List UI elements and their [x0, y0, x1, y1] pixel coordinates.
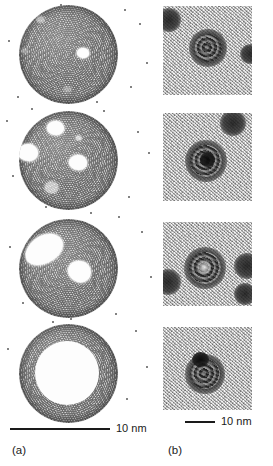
stray-atom	[31, 108, 33, 110]
void-3	[69, 155, 87, 170]
nanoparticle-cross-section-3	[19, 219, 118, 318]
stray-atom	[139, 23, 141, 25]
stray-atom	[7, 348, 9, 350]
tem-micrograph-4	[163, 327, 252, 410]
scalebar-label-panel-a: 10 nm	[116, 423, 147, 434]
stray-atom	[103, 110, 105, 112]
stray-atom	[148, 152, 150, 154]
stray-atom	[124, 9, 126, 11]
stray-atom	[52, 321, 54, 323]
void-4	[45, 182, 58, 193]
stray-atom	[22, 302, 24, 304]
tem-nanoparticle-neighbor-bottom-right	[234, 283, 252, 305]
figure-container: 10 nm 10 nm (a) (b)	[0, 0, 273, 466]
tem-micrograph-1	[163, 6, 252, 95]
stray-atom	[130, 86, 132, 88]
void-3	[22, 49, 27, 53]
panel-label-b: (b)	[168, 445, 182, 457]
void-2	[37, 17, 44, 22]
tem-nanoparticle-neighbor-top	[220, 113, 246, 136]
tem-nanoparticle-neighbor-right	[240, 44, 252, 64]
void-1	[77, 48, 89, 58]
panel-label-a: (a)	[12, 445, 26, 457]
stray-atom	[146, 62, 148, 64]
stray-atom	[96, 101, 98, 103]
scalebar-label-panel-b: 10 nm	[221, 416, 252, 427]
stray-atom	[9, 246, 11, 248]
stray-atom	[88, 411, 90, 413]
stray-atom	[6, 120, 8, 122]
stray-atom	[60, 4, 62, 6]
tem-dark-core	[192, 352, 209, 367]
stray-atom	[141, 231, 143, 233]
tem-nanoparticle-neighbor-left	[163, 269, 181, 295]
stray-atom	[150, 276, 152, 278]
nanoparticle-cross-section-4	[19, 324, 118, 423]
nanoparticle-cross-section-2	[19, 111, 118, 210]
stray-atom	[90, 212, 92, 214]
particle-rim	[19, 111, 118, 210]
stray-atom	[12, 175, 14, 177]
stray-atom	[8, 40, 10, 42]
void-5	[76, 136, 81, 140]
nanoparticle-cross-section-1	[19, 5, 118, 104]
tem-nanoparticle-neighbor-right	[234, 253, 252, 279]
stray-atom	[135, 330, 137, 332]
stray-atom	[137, 131, 139, 133]
tem-dark-core	[200, 152, 215, 167]
scalebar-panel-a	[10, 428, 110, 430]
tem-micrograph-2	[163, 113, 252, 201]
stray-atom	[115, 313, 117, 315]
stray-atom	[128, 196, 130, 198]
hollow-core-void	[35, 341, 99, 405]
void-2	[19, 144, 38, 161]
panel-a-simulation-column	[0, 0, 155, 415]
stray-atom	[70, 318, 72, 320]
tem-nanoparticle-neighbor-top-left	[163, 8, 181, 32]
stray-atom	[146, 366, 148, 368]
void-4	[63, 87, 71, 92]
scalebar-panel-b	[185, 421, 215, 423]
tem-micrograph-3	[163, 222, 252, 306]
stray-atom	[45, 206, 47, 208]
tem-nanoparticle-main	[189, 29, 227, 67]
void-1	[47, 121, 64, 135]
stray-atom	[118, 216, 120, 218]
tem-lucent-center	[198, 261, 211, 274]
stray-atom	[126, 398, 128, 400]
stray-atom	[17, 96, 19, 98]
